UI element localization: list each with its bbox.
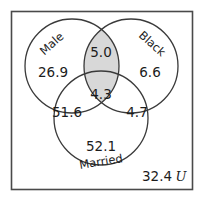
region-value-black-married: 4.7 bbox=[126, 104, 147, 120]
region-value-male-black-married: 4.3 bbox=[90, 86, 111, 102]
region-value-married-only: 52.1 bbox=[86, 138, 116, 154]
region-value-male-only: 26.9 bbox=[38, 64, 68, 80]
region-value-outside-all: 32.4 bbox=[142, 168, 172, 184]
universal-set-symbol: U bbox=[176, 169, 188, 184]
venn-diagram-figure: Male Black Married 26.9 6.6 52.1 5.0 51.… bbox=[0, 0, 205, 200]
region-value-male-married: 51.6 bbox=[52, 104, 82, 120]
venn-diagram-svg: Male Black Married 26.9 6.6 52.1 5.0 51.… bbox=[0, 0, 205, 200]
region-value-male-black: 5.0 bbox=[90, 44, 111, 60]
region-value-black-only: 6.6 bbox=[139, 64, 160, 80]
